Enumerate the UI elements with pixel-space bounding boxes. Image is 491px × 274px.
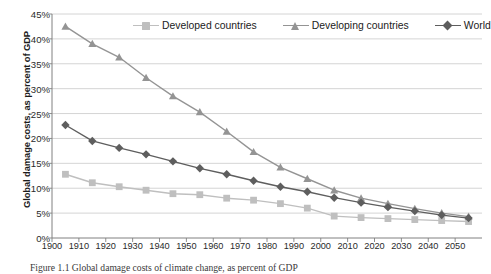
data-point-marker — [61, 121, 69, 129]
data-point-marker — [143, 187, 150, 194]
legend-swatch — [133, 21, 159, 31]
triangle-marker-icon — [291, 22, 299, 30]
data-point-marker — [89, 179, 96, 186]
data-point-marker — [88, 137, 96, 145]
x-axis-tick-labels: 1900191019201930194019501960197019801990… — [0, 241, 487, 255]
data-point-marker — [330, 193, 338, 201]
legend-label: Developed countries — [162, 20, 257, 31]
data-point-marker — [331, 213, 338, 220]
data-point-marker — [276, 163, 284, 170]
data-point-marker — [385, 215, 392, 222]
legend-label: Developing countries — [312, 20, 409, 31]
data-point-marker — [115, 53, 123, 60]
series-line — [65, 174, 468, 221]
legend-item-square[interactable]: Developed countries — [133, 20, 257, 31]
data-point-marker — [196, 164, 204, 172]
diamond-marker-icon — [443, 21, 453, 31]
legend-swatch — [435, 21, 461, 31]
data-point-marker — [223, 195, 230, 202]
legend-swatch — [283, 21, 309, 31]
data-point-marker — [250, 197, 257, 204]
square-marker-icon — [142, 22, 150, 30]
data-point-marker — [115, 144, 123, 152]
data-point-marker — [330, 186, 338, 193]
data-point-marker — [303, 175, 311, 182]
data-point-marker — [170, 190, 177, 197]
data-point-marker — [142, 150, 150, 158]
data-point-marker — [196, 191, 203, 198]
chart-area: Global damage costs, as percent of GDP 0… — [0, 0, 487, 256]
data-point-marker — [169, 92, 177, 99]
data-point-marker — [61, 22, 69, 29]
x-axis-tick-label: 2050 — [435, 241, 475, 251]
data-point-marker — [196, 108, 204, 115]
data-point-marker — [62, 171, 69, 178]
data-point-marker — [169, 157, 177, 165]
data-point-marker — [222, 170, 230, 178]
figure-caption: Figure 1.1 Global damage costs of climat… — [30, 262, 298, 273]
legend-item-diamond[interactable]: World — [435, 20, 491, 31]
data-point-marker — [88, 40, 96, 47]
data-point-marker — [249, 177, 257, 185]
data-point-marker — [303, 188, 311, 196]
legend-label: World — [464, 20, 491, 31]
data-point-marker — [223, 127, 231, 134]
plot-svg — [0, 0, 487, 256]
data-point-marker — [358, 214, 365, 221]
data-point-marker — [277, 200, 284, 207]
series-line — [65, 125, 468, 218]
chart-legend: Developed countriesDeveloping countriesW… — [133, 20, 491, 31]
legend-item-triangle[interactable]: Developing countries — [283, 20, 409, 31]
data-point-marker — [304, 205, 311, 212]
data-point-marker — [116, 183, 123, 190]
data-point-marker — [411, 216, 418, 223]
data-point-marker — [276, 183, 284, 191]
